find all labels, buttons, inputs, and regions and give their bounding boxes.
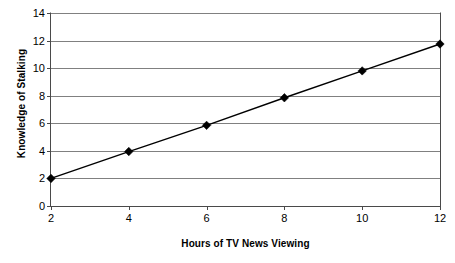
series-line (51, 44, 440, 178)
x-axis-title: Hours of TV News Viewing (50, 238, 441, 249)
y-axis-title: Knowledge of Stalking (8, 0, 34, 207)
y-tick-label: 12 (33, 35, 45, 47)
x-tick-label: 8 (281, 212, 287, 224)
x-tick-label: 12 (434, 212, 446, 224)
data-point-marker (125, 147, 133, 155)
x-tick-label: 10 (356, 212, 368, 224)
y-tick-label: 2 (39, 172, 45, 184)
data-point-marker (47, 174, 55, 182)
data-point-marker (358, 67, 366, 75)
x-tick-label: 6 (204, 212, 210, 224)
x-tick-mark (440, 206, 441, 210)
line-chart: Knowledge of Stalking 02468101214 246810… (0, 0, 455, 263)
data-series-layer (51, 13, 440, 206)
x-tick-mark (284, 206, 285, 210)
x-tick-label: 2 (48, 212, 54, 224)
x-tick-mark (51, 206, 52, 210)
y-tick-label: 10 (33, 62, 45, 74)
y-tick-label: 8 (39, 90, 45, 102)
y-tick-label: 0 (39, 200, 45, 212)
data-point-marker (202, 121, 210, 129)
y-tick-label: 14 (33, 7, 45, 19)
x-tick-mark (207, 206, 208, 210)
x-tick-mark (362, 206, 363, 210)
y-tick-label: 4 (39, 145, 45, 157)
x-tick-mark (129, 206, 130, 210)
x-tick-label: 4 (126, 212, 132, 224)
data-point-marker (280, 94, 288, 102)
data-point-marker (436, 40, 444, 48)
y-tick-label: 6 (39, 117, 45, 129)
plot-area: 02468101214 24681012 (50, 12, 441, 207)
